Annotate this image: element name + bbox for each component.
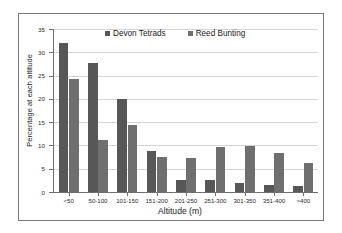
bar xyxy=(128,125,138,192)
legend-swatch-icon xyxy=(188,31,193,36)
bar xyxy=(216,147,226,192)
bar xyxy=(264,185,274,192)
bar xyxy=(157,157,167,192)
y-axis-tick-label: 35 xyxy=(15,26,45,33)
x-axis-tick xyxy=(98,193,99,196)
legend-label: Devon Tetrads xyxy=(113,29,166,38)
bar xyxy=(147,151,157,192)
chart-figure: Percentage at each altitude 051015202530… xyxy=(0,0,342,233)
y-axis-tick xyxy=(49,99,53,100)
x-axis-tick xyxy=(274,193,275,196)
bar xyxy=(69,79,79,192)
bar-group xyxy=(54,29,83,192)
bar xyxy=(186,158,196,192)
y-axis-tick xyxy=(49,52,53,53)
bar xyxy=(235,183,245,192)
y-axis-tick xyxy=(49,192,53,193)
y-axis-tick-label: 25 xyxy=(15,72,45,79)
bar xyxy=(274,153,284,192)
chart-legend: Devon TetradsReed Bunting xyxy=(105,29,245,38)
y-axis-tick-label: 10 xyxy=(15,142,45,149)
y-axis-tick xyxy=(49,122,53,123)
y-axis-tick-label: 5 xyxy=(15,165,45,172)
y-axis-tick xyxy=(49,145,53,146)
legend-item: Reed Bunting xyxy=(188,29,246,38)
bar-group xyxy=(142,29,171,192)
bar xyxy=(245,146,255,192)
x-axis-tick xyxy=(215,193,216,196)
x-axis-tick xyxy=(127,193,128,196)
bar-group xyxy=(201,29,230,192)
x-axis-tick xyxy=(245,193,246,196)
y-axis-tick-label: 20 xyxy=(15,95,45,102)
bar xyxy=(59,43,69,192)
legend-label: Reed Bunting xyxy=(196,29,246,38)
bar-group xyxy=(83,29,112,192)
bar xyxy=(205,180,215,192)
bar-group xyxy=(171,29,200,192)
bar xyxy=(98,140,108,192)
x-axis-tick-label: >400 xyxy=(283,197,323,204)
bar xyxy=(304,163,314,192)
bar xyxy=(293,186,303,192)
bar xyxy=(88,63,98,192)
x-axis-tick xyxy=(303,193,304,196)
x-axis-ticks: <5050-100101-150151-200201-250251-300301… xyxy=(54,193,318,207)
bar xyxy=(117,99,127,192)
legend-swatch-icon xyxy=(105,31,110,36)
plot-area xyxy=(54,29,318,192)
y-axis-tick xyxy=(49,76,53,77)
x-axis-tick xyxy=(157,193,158,196)
bar-group xyxy=(113,29,142,192)
x-axis-tick xyxy=(186,193,187,196)
bar-group xyxy=(259,29,288,192)
y-axis-tick-label: 15 xyxy=(15,119,45,126)
x-axis-title: Altitude (m) xyxy=(40,206,320,216)
bar xyxy=(176,180,186,192)
y-axis-tick-label: 0 xyxy=(15,189,45,196)
bar-group xyxy=(230,29,259,192)
bar-group xyxy=(289,29,318,192)
x-axis-tick xyxy=(69,193,70,196)
legend-item: Devon Tetrads xyxy=(105,29,166,38)
y-axis-tick xyxy=(49,29,53,30)
y-axis-tick-label: 30 xyxy=(15,49,45,56)
y-axis-tick xyxy=(49,169,53,170)
